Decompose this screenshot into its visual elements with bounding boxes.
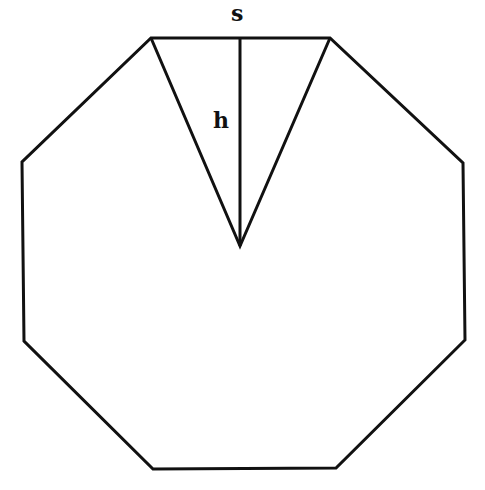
side-label: s (231, 2, 243, 24)
height-label: h (213, 109, 229, 131)
diagram-svg (0, 0, 485, 490)
octagon-diagram: s h (0, 0, 485, 490)
octagon-outline (22, 38, 465, 469)
